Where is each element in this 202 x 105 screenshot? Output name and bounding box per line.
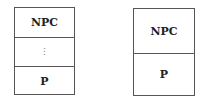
cell-label: NPC: [150, 25, 177, 38]
cell-p: P: [134, 53, 194, 95]
cell-npc: NPC: [15, 8, 74, 37]
cell-label: P: [40, 75, 48, 88]
cell-npc: NPC: [134, 9, 194, 53]
cell-label: P: [160, 68, 168, 81]
stack-diagram-left: NPC ⋮ P: [14, 7, 75, 95]
cell-p: P: [15, 66, 74, 95]
cell-label: NPC: [31, 16, 58, 29]
cell-ellipsis: ⋮: [15, 37, 74, 66]
vertical-ellipsis: ⋮: [40, 51, 49, 54]
stack-diagram-right: NPC P: [133, 8, 195, 96]
